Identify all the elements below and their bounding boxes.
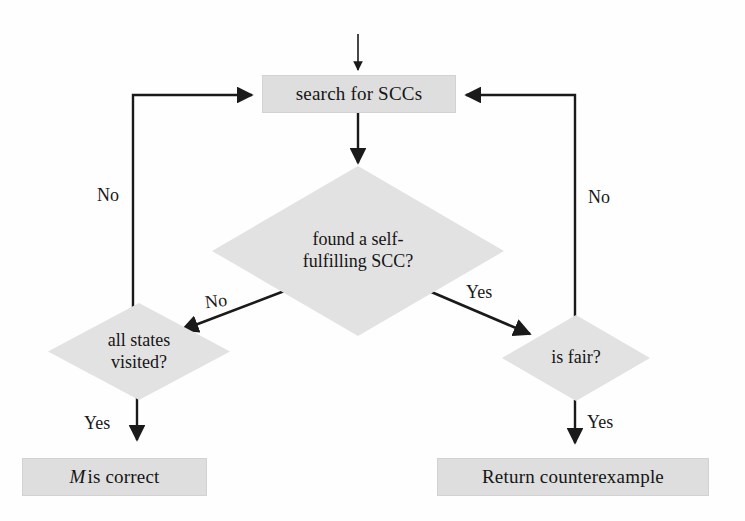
node-m-is-correct[interactable]: M is correct bbox=[22, 458, 207, 496]
node-m-is-correct-label: is correct bbox=[87, 466, 159, 488]
node-found-self-fulfilling-scc-label: found a self- fulfilling SCC? bbox=[212, 166, 504, 336]
edge-label-scc-yes: Yes bbox=[466, 283, 492, 301]
edge-label-all-states-yes: Yes bbox=[84, 414, 110, 432]
node-all-states-visited-label: all states visited? bbox=[48, 303, 230, 400]
node-is-fair-label: is fair? bbox=[502, 315, 650, 401]
node-is-fair[interactable]: is fair? bbox=[502, 315, 650, 401]
edge-label-is-fair-no: No bbox=[588, 188, 610, 206]
node-m-is-correct-variable: M bbox=[69, 466, 87, 488]
node-return-counterexample-label: Return counterexample bbox=[482, 466, 664, 488]
node-return-counterexample[interactable]: Return counterexample bbox=[437, 458, 709, 496]
edge-label-is-fair-yes: Yes bbox=[587, 413, 613, 431]
node-search-for-sccs[interactable]: search for SCCs bbox=[262, 75, 456, 113]
node-found-self-fulfilling-scc[interactable]: found a self- fulfilling SCC? bbox=[212, 166, 504, 336]
edge-label-all-states-no: No bbox=[97, 186, 119, 204]
node-all-states-visited[interactable]: all states visited? bbox=[48, 303, 230, 400]
node-search-for-sccs-label: search for SCCs bbox=[296, 83, 422, 105]
edge-label-scc-no: No bbox=[204, 291, 228, 312]
flowchart-canvas: search for SCCs found a self- fulfilling… bbox=[0, 0, 745, 521]
